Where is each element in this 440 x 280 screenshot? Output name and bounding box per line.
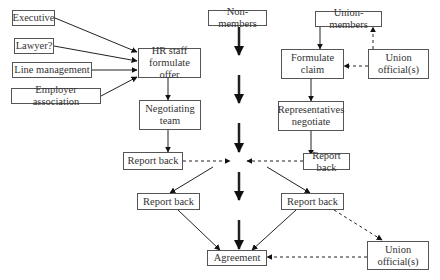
edge-executive-hr [55,18,137,52]
edge-lawyer-hr [54,46,137,61]
node-line-management: Line management [12,62,92,78]
node-formulate-claim: Formulate claim [281,49,344,79]
node-lawyer: Lawyer? [14,38,54,54]
node-report-back-right-lower: Report back [281,193,344,210]
node-non-members: Non-members [208,10,267,26]
node-report-back-left-lower: Report back [137,193,200,210]
edge-report-left-agreement [178,210,220,250]
edge-employer-hr [101,77,137,96]
diagram-edges [0,0,440,280]
node-report-back-right: Report back [303,153,350,170]
node-representatives-negotiate: Representatives negotiate [278,101,344,131]
edge-report-right-agreement [252,210,296,250]
node-union-members: Union-members [315,11,382,27]
node-report-back-left: Report back [123,152,183,170]
node-executive: Executive [12,10,55,26]
node-union-officials-top: Union official(s) [368,49,429,79]
node-employer-association: Employer association [11,88,101,104]
edge-center-report-left-lower [170,167,213,193]
node-union-officials-bottom: Union official(s) [367,241,429,270]
node-agreement: Agreement [207,250,267,266]
node-hr-staff: HR staff formulate offer [138,48,201,78]
edge-report-right-officials [334,210,382,240]
node-negotiating-team: Negotiating team [139,100,201,130]
